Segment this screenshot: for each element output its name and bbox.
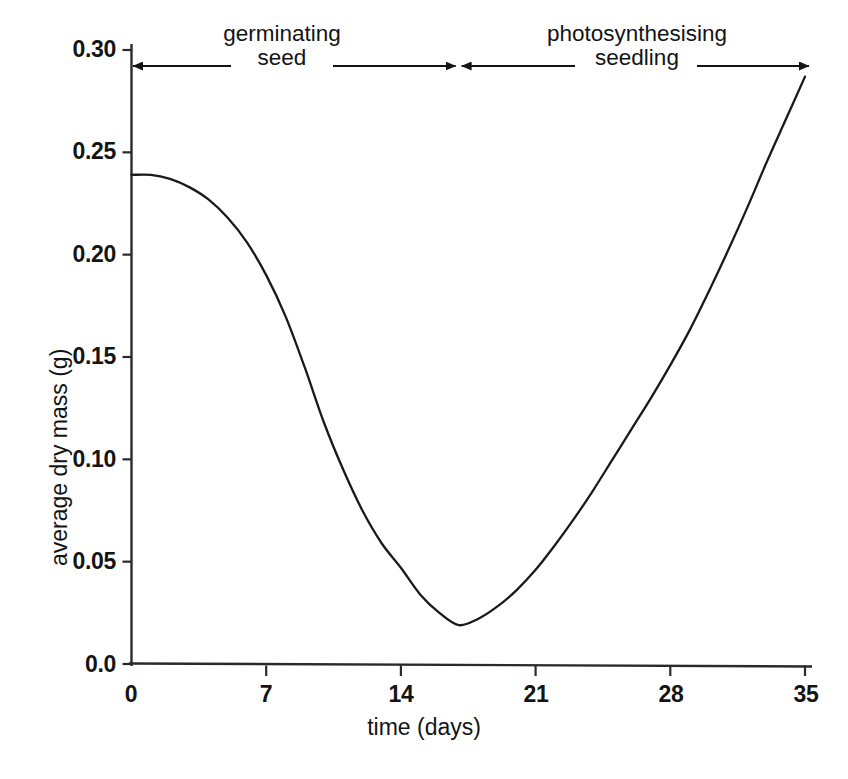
x-tick-label-7: 7 (236, 681, 296, 708)
annotation-germinating-seed-line1: germinating (223, 21, 341, 46)
y-axis-ticks (123, 50, 132, 664)
annotation-germinating-seed-line2: seed (258, 45, 307, 70)
plot-canvas (0, 0, 848, 779)
x-tick-label-21: 21 (506, 681, 566, 708)
chart-figure: 0.30 0.25 0.20 0.15 0.10 0.05 0.0 0 7 14… (0, 0, 848, 779)
axes-group (129, 44, 812, 667)
x-axis-title: time (days) (0, 714, 848, 741)
x-tick-label-14: 14 (371, 681, 431, 708)
annotation-photosynthesising-seedling-line2: seedling (595, 45, 679, 70)
annotation-photosynthesising-seedling-line1: photosynthesising (547, 21, 727, 46)
y-axis-title: average dry mass (g) (46, 349, 73, 566)
y-tick-label-0.0: 0.0 (10, 651, 116, 678)
x-tick-label-28: 28 (641, 681, 701, 708)
x-tick-label-0: 0 (101, 681, 161, 708)
data-series-line (132, 77, 806, 626)
y-tick-label-0.30: 0.30 (10, 36, 116, 63)
annotation-photosynthesising-seedling: photosynthesising seedling (531, 22, 743, 71)
x-axis-line (129, 664, 812, 667)
annotation-germinating-seed: germinating seed (177, 22, 387, 71)
y-tick-label-0.25: 0.25 (10, 138, 116, 165)
x-tick-label-35: 35 (776, 681, 836, 708)
y-tick-label-0.20: 0.20 (10, 241, 116, 268)
